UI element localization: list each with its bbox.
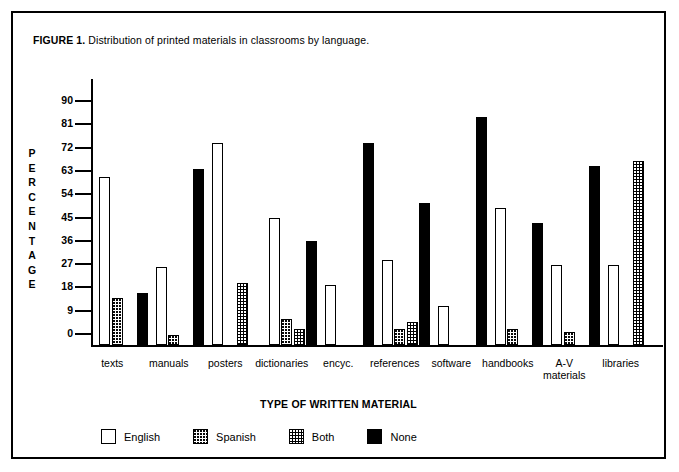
- figure-caption: FIGURE 1. Distribution of printed materi…: [33, 34, 369, 46]
- figure-frame: FIGURE 1. Distribution of printed materi…: [11, 11, 666, 459]
- y-axis-tick: [75, 217, 92, 219]
- bar-both: [633, 161, 644, 345]
- bar-none: [419, 203, 430, 345]
- bar-english: [551, 265, 562, 345]
- bar-group: [325, 85, 382, 345]
- legend-item-english[interactable]: English: [101, 429, 160, 444]
- bar-group: [495, 85, 552, 345]
- y-axis-tick: [75, 333, 92, 335]
- bar-none: [137, 293, 148, 345]
- bar-both: [294, 329, 305, 345]
- y-axis-tick: [75, 170, 92, 172]
- bar-group: [212, 85, 269, 345]
- bar-english: [608, 265, 619, 345]
- bar-english: [212, 143, 223, 345]
- y-axis-tick: [75, 123, 92, 125]
- bar-english: [325, 285, 336, 345]
- legend-swatch-none: [367, 429, 382, 444]
- y-axis-tick: [75, 147, 92, 149]
- y-axis-tick-label: 36: [33, 235, 73, 245]
- legend-label: Both: [312, 431, 335, 443]
- bar-group: [382, 85, 439, 345]
- bar-group: [438, 85, 495, 345]
- bar-spanish: [564, 332, 575, 345]
- y-axis-tick: [75, 286, 92, 288]
- y-axis-tick: [75, 263, 92, 265]
- bar-none: [306, 241, 317, 345]
- bar-both: [407, 322, 418, 345]
- bar-english: [99, 177, 110, 345]
- bar-none: [363, 143, 374, 345]
- x-axis-tick-label: libraries: [576, 357, 666, 369]
- bar-none: [532, 223, 543, 345]
- bar-group: [551, 85, 608, 345]
- bar-english: [438, 306, 449, 345]
- bar-group: [156, 85, 213, 345]
- legend-swatch-spanish: [193, 429, 208, 444]
- bar-english: [269, 218, 280, 345]
- bar-spanish: [168, 335, 179, 345]
- bar-none: [589, 166, 600, 345]
- bar-english: [382, 260, 393, 345]
- legend-label: None: [390, 431, 416, 443]
- y-axis-tick-label: 9: [33, 305, 73, 315]
- bar-none: [193, 169, 204, 345]
- x-axis-line: [91, 345, 663, 347]
- bar-none: [476, 117, 487, 345]
- y-axis-tick-label: 90: [33, 95, 73, 105]
- bar-group: [99, 85, 156, 345]
- bar-english: [156, 267, 167, 345]
- bar-spanish: [112, 298, 123, 345]
- y-axis-tick: [75, 193, 92, 195]
- legend-item-none[interactable]: None: [367, 429, 416, 444]
- legend-label: English: [124, 431, 160, 443]
- y-axis-tick-label: 63: [33, 165, 73, 175]
- figure-caption-text: Distribution of printed materials in cla…: [85, 34, 369, 46]
- legend-swatch-english: [101, 429, 116, 444]
- y-axis-tick: [75, 240, 92, 242]
- y-axis-tick-label: 0: [33, 328, 73, 338]
- y-axis-tick: [75, 100, 92, 102]
- x-axis-title: TYPE OF WRITTEN MATERIAL: [13, 398, 664, 410]
- chart-legend: EnglishSpanishBothNone: [101, 429, 450, 444]
- legend-item-spanish[interactable]: Spanish: [193, 429, 256, 444]
- legend-item-both[interactable]: Both: [289, 429, 335, 444]
- bar-english: [495, 208, 506, 345]
- bar-both: [237, 283, 248, 345]
- y-axis-tick-label: 18: [33, 281, 73, 291]
- y-axis-tick-label: 54: [33, 188, 73, 198]
- y-axis-tick-label: 81: [33, 118, 73, 128]
- x-axis-tick-label-line: libraries: [576, 357, 666, 369]
- legend-swatch-both: [289, 429, 304, 444]
- y-axis-tick-label: 27: [33, 258, 73, 268]
- bar-group: [608, 85, 665, 345]
- bar-spanish: [281, 319, 292, 345]
- y-axis-tick: [75, 310, 92, 312]
- plot-area: [91, 85, 661, 345]
- legend-label: Spanish: [216, 431, 256, 443]
- bar-group: [269, 85, 326, 345]
- x-axis-tick-label-line: materials: [519, 369, 609, 381]
- y-axis-tick-label: 72: [33, 142, 73, 152]
- bar-spanish: [507, 329, 518, 345]
- y-axis-tick-label: 45: [33, 212, 73, 222]
- bar-spanish: [394, 329, 405, 345]
